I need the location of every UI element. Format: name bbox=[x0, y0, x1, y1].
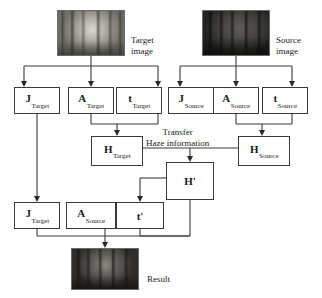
node-a-target-label: ATarget bbox=[78, 93, 104, 107]
node-j-source-symbol: J bbox=[179, 92, 185, 104]
node-t-source-subscript: Source bbox=[278, 102, 297, 110]
node-h-prime[interactable]: H' bbox=[166, 162, 214, 200]
node-h-source-subscript: Source bbox=[259, 152, 278, 160]
node-h-prime-symbol: H bbox=[184, 175, 193, 187]
node-t-target-symbol: t bbox=[128, 92, 132, 104]
node-t-prime-mark: ' bbox=[140, 210, 143, 222]
node-t-target-subscript: Target bbox=[133, 102, 151, 110]
node-a-target[interactable]: ATarget bbox=[68, 87, 114, 114]
node-j-target-top-subscript: Target bbox=[31, 102, 49, 110]
node-h-target-subscript: Target bbox=[113, 152, 131, 160]
haze-transfer-diagram: Target image Source image Result Transfe… bbox=[0, 0, 322, 298]
node-a-target-symbol: A bbox=[78, 92, 86, 104]
node-t-source-symbol: t bbox=[273, 92, 277, 104]
node-j-target-top[interactable]: JTarget bbox=[14, 87, 60, 114]
node-t-source-label: tSource bbox=[273, 93, 296, 107]
arrowhead-result bbox=[102, 242, 108, 248]
node-t-prime[interactable]: t' bbox=[116, 202, 164, 229]
node-a-source-bottom-subscript: Source bbox=[86, 217, 105, 225]
node-h-target-symbol: H bbox=[104, 143, 113, 155]
node-j-source[interactable]: JSource bbox=[168, 87, 214, 114]
node-j-target-bottom[interactable]: JTarget bbox=[14, 202, 60, 229]
node-a-source-bottom-label: ASource bbox=[77, 208, 104, 222]
node-h-source-symbol: H bbox=[250, 143, 259, 155]
node-a-source-bottom[interactable]: ASource bbox=[66, 202, 116, 229]
node-h-prime-mark: ' bbox=[193, 175, 196, 187]
node-h-prime-label: H' bbox=[184, 175, 196, 187]
node-j-target-top-label: JTarget bbox=[25, 93, 48, 107]
node-h-target[interactable]: HTarget bbox=[91, 136, 143, 166]
node-t-source[interactable]: tSource bbox=[262, 87, 308, 114]
node-t-target-label: tTarget bbox=[128, 93, 149, 107]
node-h-target-label: HTarget bbox=[104, 144, 130, 158]
node-a-target-subscript: Target bbox=[87, 102, 105, 110]
node-a-source-top-label: ASource bbox=[222, 93, 249, 107]
node-h-source[interactable]: HSource bbox=[238, 136, 290, 166]
node-j-target-bottom-label: JTarget bbox=[25, 208, 48, 222]
node-t-target[interactable]: tTarget bbox=[116, 87, 162, 114]
node-a-source-top-subscript: Source bbox=[231, 102, 250, 110]
node-t-prime-label: t' bbox=[137, 210, 144, 222]
node-a-source-top-symbol: A bbox=[222, 92, 230, 104]
node-a-source-top[interactable]: ASource bbox=[213, 87, 259, 114]
node-j-target-bottom-subscript: Target bbox=[31, 217, 49, 225]
node-a-source-bottom-symbol: A bbox=[77, 207, 85, 219]
node-j-source-label: JSource bbox=[179, 93, 204, 107]
node-j-source-subscript: Source bbox=[185, 102, 204, 110]
node-h-source-label: HSource bbox=[250, 144, 278, 158]
